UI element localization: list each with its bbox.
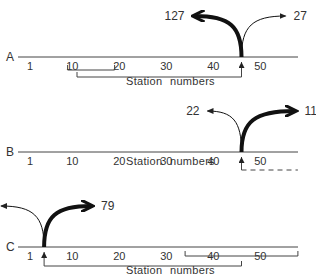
tick-label: 50 xyxy=(254,155,266,167)
panel-b: B1102030405022119Stationnumbers xyxy=(6,104,316,170)
tick-label: 40 xyxy=(207,60,219,72)
flow-count-label: 79 xyxy=(101,199,115,213)
station-range-bracket xyxy=(185,251,298,256)
panel-a: A1102030405012727Stationnumbers xyxy=(6,9,307,87)
tick-label: 1 xyxy=(27,250,33,262)
flow-arrow-left xyxy=(195,16,242,57)
panel-label: B xyxy=(6,145,14,159)
axis-caption-numbers: numbers xyxy=(170,264,215,276)
axis-caption-station: Station xyxy=(126,75,162,87)
tick-label: 1 xyxy=(27,60,33,72)
tick-label: 10 xyxy=(66,250,78,262)
flow-arrow-left xyxy=(208,111,242,152)
station-range-bracket xyxy=(242,157,298,170)
flow-count-label: 127 xyxy=(164,9,184,23)
flow-arrow-right xyxy=(242,16,286,57)
axis-caption-numbers: numbers xyxy=(170,155,215,167)
tick-label: 30 xyxy=(160,60,172,72)
flow-arrow-right xyxy=(44,206,91,247)
axis-caption-station: Station xyxy=(126,264,162,276)
tick-label: 20 xyxy=(113,250,125,262)
tick-label: 10 xyxy=(66,155,78,167)
station-flow-diagram: A1102030405012727StationnumbersB11020304… xyxy=(0,0,316,276)
panel-c: C11020304050779Stationnumbers xyxy=(0,199,298,276)
flow-arrow-right xyxy=(242,111,295,152)
tick-label: 30 xyxy=(160,250,172,262)
flow-count-label: 27 xyxy=(294,9,308,23)
tick-label: 20 xyxy=(113,155,125,167)
flow-count-label: 119 xyxy=(305,104,317,118)
axis-caption-numbers: numbers xyxy=(170,75,215,87)
panel-label: C xyxy=(6,240,15,254)
tick-label: 50 xyxy=(254,60,266,72)
panel-label: A xyxy=(6,50,14,64)
flow-count-label: 22 xyxy=(186,104,200,118)
tick-label: 1 xyxy=(27,155,33,167)
axis-caption-station: Station xyxy=(126,155,162,167)
